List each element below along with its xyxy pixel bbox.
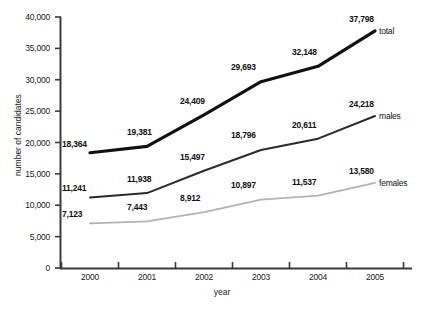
y-tick-label: 10,000 (6, 200, 50, 210)
data-point-label: 8,912 (180, 193, 200, 203)
x-axis-title: year (182, 287, 262, 297)
y-tick-label: 5,000 (6, 232, 50, 242)
data-point-label: 7,123 (62, 209, 82, 219)
x-tick-label: 2004 (298, 272, 338, 282)
series-label-total: total (379, 26, 394, 36)
data-point-label: 10,897 (231, 180, 256, 190)
y-tick-label: 35,000 (6, 43, 50, 53)
y-tick-label: 40,000 (6, 12, 50, 22)
chart-figure: 05,00010,00015,00020,00025,00030,00035,0… (0, 0, 424, 309)
y-tick-label: 0 (6, 263, 50, 273)
x-tick-label: 2001 (127, 272, 167, 282)
y-axis-title: number of candidates (13, 75, 23, 195)
data-point-label: 24,218 (349, 99, 374, 109)
data-point-label: 11,938 (127, 174, 151, 184)
x-tick-label: 2000 (70, 272, 110, 282)
data-point-label: 13,580 (349, 166, 374, 176)
series-label-females: females (379, 178, 407, 188)
data-point-label: 11,241 (62, 183, 86, 193)
x-tick-label: 2005 (355, 272, 395, 282)
series-label-males: males (379, 111, 401, 121)
data-point-label: 18,364 (62, 139, 87, 149)
data-point-label: 7,443 (127, 202, 147, 212)
data-point-label: 29,693 (231, 62, 256, 72)
data-point-label: 32,148 (292, 47, 317, 57)
chart-canvas (0, 0, 424, 309)
data-point-label: 18,796 (231, 130, 256, 140)
data-point-label: 19,381 (127, 127, 152, 137)
x-tick-label: 2003 (241, 272, 281, 282)
data-point-label: 24,409 (180, 96, 205, 106)
data-point-label: 37,798 (349, 14, 374, 24)
data-point-label: 15,497 (180, 152, 205, 162)
data-point-label: 11,537 (292, 177, 316, 187)
data-point-label: 20,611 (292, 120, 316, 130)
x-tick-label: 2002 (184, 272, 224, 282)
